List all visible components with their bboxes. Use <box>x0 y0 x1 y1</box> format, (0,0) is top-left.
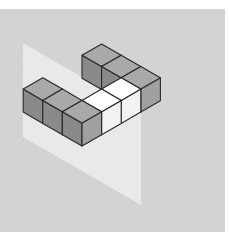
grid-dot <box>62 209 63 210</box>
grid-dot <box>3 174 4 175</box>
grid-dot <box>218 163 219 164</box>
grid-dot <box>218 140 219 141</box>
grid-dot <box>3 13 4 14</box>
grid-dot <box>218 71 219 72</box>
grid-dot <box>159 220 160 221</box>
grid-dot <box>81 220 82 221</box>
grid-dot <box>120 220 121 221</box>
grid-dot <box>101 25 102 26</box>
grid-dot <box>62 25 63 26</box>
grid-dot <box>198 128 199 129</box>
grid-dot <box>179 71 180 72</box>
grid-dot <box>81 13 82 14</box>
grid-dot <box>120 36 121 37</box>
grid-dot <box>159 151 160 152</box>
grid-dot <box>198 220 199 221</box>
grid-dot <box>3 220 4 221</box>
grid-dot <box>179 140 180 141</box>
grid-dot <box>42 220 43 221</box>
grid-dot <box>120 197 121 198</box>
grid-dot <box>3 59 4 60</box>
grid-dot <box>179 209 180 210</box>
grid-dot <box>218 94 219 95</box>
grid-dot <box>81 174 82 175</box>
grid-dot <box>62 186 63 187</box>
grid-dot <box>218 25 219 26</box>
grid-dot <box>159 59 160 60</box>
grid-dot <box>62 48 63 49</box>
grid-dot <box>179 48 180 49</box>
grid-dot <box>42 36 43 37</box>
grid-dot <box>23 25 24 26</box>
grid-dot <box>23 163 24 164</box>
isometric-cube-figure <box>0 0 229 237</box>
grid-dot <box>42 151 43 152</box>
grid-dot <box>3 82 4 83</box>
grid-dot <box>198 59 199 60</box>
grid-dot <box>198 13 199 14</box>
grid-dot <box>140 25 141 26</box>
grid-dot <box>3 128 4 129</box>
grid-dot <box>218 48 219 49</box>
grid-dot <box>159 197 160 198</box>
grid-dot <box>198 105 199 106</box>
grid-dot <box>42 174 43 175</box>
grid-dot <box>23 186 24 187</box>
grid-dot <box>101 186 102 187</box>
grid-dot <box>23 209 24 210</box>
grid-dot <box>81 36 82 37</box>
grid-dot <box>179 117 180 118</box>
grid-dot <box>3 105 4 106</box>
grid-dot <box>218 117 219 118</box>
grid-dot <box>3 36 4 37</box>
grid-dot <box>159 13 160 14</box>
grid-dot <box>42 13 43 14</box>
grid-dot <box>159 174 160 175</box>
grid-dot <box>23 140 24 141</box>
grid-dot <box>140 209 141 210</box>
grid-dot <box>159 36 160 37</box>
grid-dot <box>62 163 63 164</box>
grid-dot <box>120 13 121 14</box>
grid-dot <box>101 209 102 210</box>
grid-dot <box>218 209 219 210</box>
grid-dot <box>179 25 180 26</box>
grid-dot <box>3 197 4 198</box>
grid-dot <box>140 48 141 49</box>
grid-dot <box>198 197 199 198</box>
grid-dot <box>218 186 219 187</box>
grid-dot <box>198 82 199 83</box>
grid-dot <box>81 197 82 198</box>
grid-dot <box>179 94 180 95</box>
grid-dot <box>159 128 160 129</box>
grid-dot <box>42 197 43 198</box>
grid-dot <box>198 174 199 175</box>
grid-dot <box>198 151 199 152</box>
grid-dot <box>3 151 4 152</box>
grid-dot <box>179 163 180 164</box>
grid-dot <box>198 36 199 37</box>
grid-dot <box>159 105 160 106</box>
grid-dot <box>179 186 180 187</box>
